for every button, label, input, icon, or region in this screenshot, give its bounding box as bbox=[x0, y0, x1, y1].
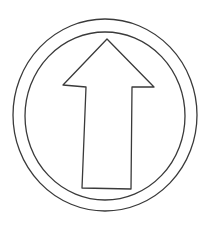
inner-ring bbox=[25, 32, 185, 200]
ahead-only-sign bbox=[0, 0, 210, 227]
up-arrow-icon bbox=[63, 39, 154, 189]
outer-ring bbox=[13, 19, 197, 211]
drawing-canvas: Ahead only sign outline bbox=[0, 0, 210, 227]
